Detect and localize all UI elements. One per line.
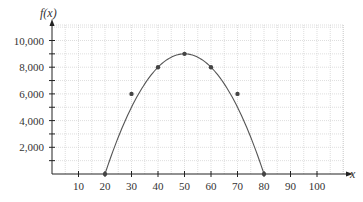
- data-point: [262, 172, 266, 176]
- data-point: [235, 92, 239, 96]
- y-axis-arrow-icon: [50, 19, 55, 26]
- x-tick-label: 90: [285, 180, 297, 192]
- data-point: [156, 65, 160, 69]
- x-tick-label: 100: [309, 180, 326, 192]
- x-tick-label: 60: [206, 180, 218, 192]
- x-tick-label: 70: [232, 180, 244, 192]
- data-point: [103, 172, 107, 176]
- y-tick-label: 2,000: [19, 141, 44, 153]
- axes: [50, 19, 354, 177]
- y-tick-label: 6,000: [19, 88, 44, 100]
- chart: 1020304050607080901002,0004,0006,0008,00…: [0, 0, 363, 202]
- data-point: [182, 52, 186, 56]
- x-tick-label: 80: [259, 180, 271, 192]
- x-tick-label: 50: [179, 180, 191, 192]
- y-tick-label: 4,000: [19, 115, 44, 127]
- y-axis-title: f(x): [40, 6, 57, 20]
- x-tick-label: 40: [153, 180, 165, 192]
- x-tick-label: 20: [100, 180, 112, 192]
- y-tick-label: 10,000: [14, 35, 45, 47]
- x-axis-title: x: [349, 167, 356, 181]
- x-tick-label: 10: [73, 180, 85, 192]
- data-point: [129, 92, 133, 96]
- grid-lines: [52, 25, 344, 174]
- y-tick-label: 8,000: [19, 61, 44, 73]
- data-point: [209, 65, 213, 69]
- x-tick-label: 30: [126, 180, 138, 192]
